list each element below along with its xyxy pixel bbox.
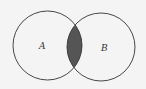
set-b-label: B: [100, 43, 108, 53]
venn-diagram: A B: [0, 0, 146, 89]
set-a-label: A: [38, 41, 46, 51]
